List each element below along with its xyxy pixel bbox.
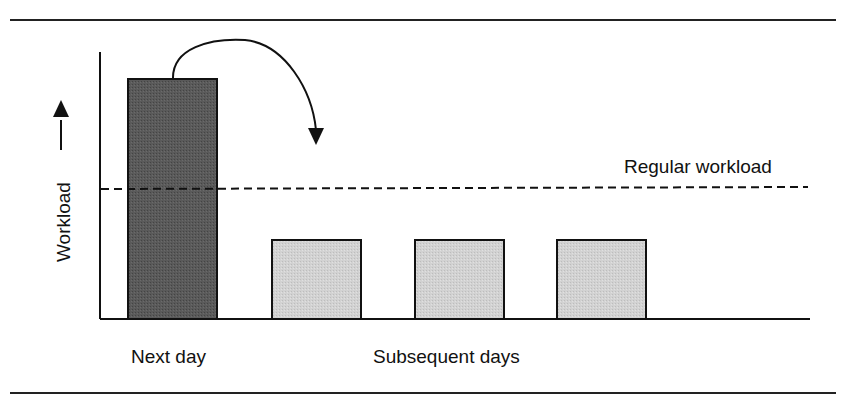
bar-subsequent-day-2 [415,240,504,319]
bar-subsequent-day-3 [557,240,646,319]
bar-subsequent-day-1 [272,240,361,319]
bar-next-day [128,79,217,319]
subsequent-days-label: Subsequent days [373,346,520,368]
y-axis-label: Workload [53,182,75,262]
next-day-label: Next day [131,346,206,368]
arrow-head-icon [308,128,324,145]
regular-workload-label: Regular workload [624,156,772,178]
up-arrow-icon [53,100,69,117]
